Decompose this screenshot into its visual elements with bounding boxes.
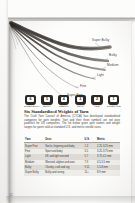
- yarn-weight-symbol-row: 6 SUPER BULKY 5 BULKY 4 MEDIUM 3: [24, 95, 120, 108]
- yarn-label-bulky: Bulky: [109, 54, 117, 57]
- skein-icon: 2: [91, 95, 103, 105]
- yarn-weight-symbol-5: 5 BULKY: [41, 95, 54, 108]
- yarn-weight-symbol-6: 6 SUPER BULKY: [24, 95, 37, 108]
- symbol-number: 6: [25, 97, 37, 102]
- symbol-caption: MEDIUM: [57, 105, 70, 107]
- symbol-number: 3: [75, 97, 87, 102]
- skein-icon: 4: [58, 95, 70, 105]
- yarn-weight-symbol-2: 2 FINE: [90, 95, 103, 108]
- symbol-caption: LIGHT: [74, 105, 87, 107]
- yarn-label-fine: Fine: [80, 85, 86, 88]
- yarn-label-super-bulky: Super Bulky: [92, 39, 109, 42]
- photographed-book-page: Super Bulky Bulky Medium Light Fine Supe…: [0, 0, 135, 203]
- yarn-weight-symbol-3: 3 LIGHT: [74, 95, 87, 108]
- cell-us: 11+: [84, 170, 96, 175]
- book-drop-shadow: [6, 196, 135, 203]
- cell-metric: 8-9 mm: [96, 170, 120, 175]
- symbol-number: 5: [41, 97, 53, 102]
- symbol-caption: SUPER FINE: [107, 105, 120, 107]
- symbol-caption: FINE: [90, 105, 103, 107]
- yarn-label-medium: Medium: [107, 64, 118, 67]
- symbol-caption: BULKY: [41, 105, 54, 107]
- yarn-weight-symbol-1: 1 SUPER FINE: [107, 95, 120, 108]
- yarn-weight-symbol-4: 4 MEDIUM: [57, 95, 70, 108]
- skein-icon: 1: [108, 95, 120, 105]
- table-row: Super Bulky Bulky and roving 11+ 8-9 mm: [24, 170, 120, 175]
- skein-icon: 5: [41, 95, 53, 105]
- yarn-label-light: Light: [97, 74, 104, 77]
- cell-uses: Bulky and roving: [44, 170, 83, 175]
- symbol-number: 1: [108, 97, 120, 102]
- skein-icon: 6: [25, 95, 37, 105]
- symbol-caption: SUPER BULKY: [24, 105, 37, 107]
- book-page: Super Bulky Bulky Medium Light Fine Supe…: [9, 21, 131, 203]
- cell-yarn: Super Bulky: [24, 170, 44, 175]
- skein-icon: 3: [75, 95, 87, 105]
- body-paragraph: The Craft Yarn Council of America (CYCA)…: [24, 115, 120, 129]
- article-block: Six Standardized Weights of Yarn The Cra…: [24, 109, 120, 129]
- yarn-weights-table: Yarn Uses U.S. Metric Super Fine Socks, …: [24, 137, 120, 176]
- section-heading: Six Standardized Weights of Yarn: [24, 109, 120, 114]
- symbol-number: 4: [58, 97, 70, 102]
- symbol-number: 2: [91, 97, 103, 102]
